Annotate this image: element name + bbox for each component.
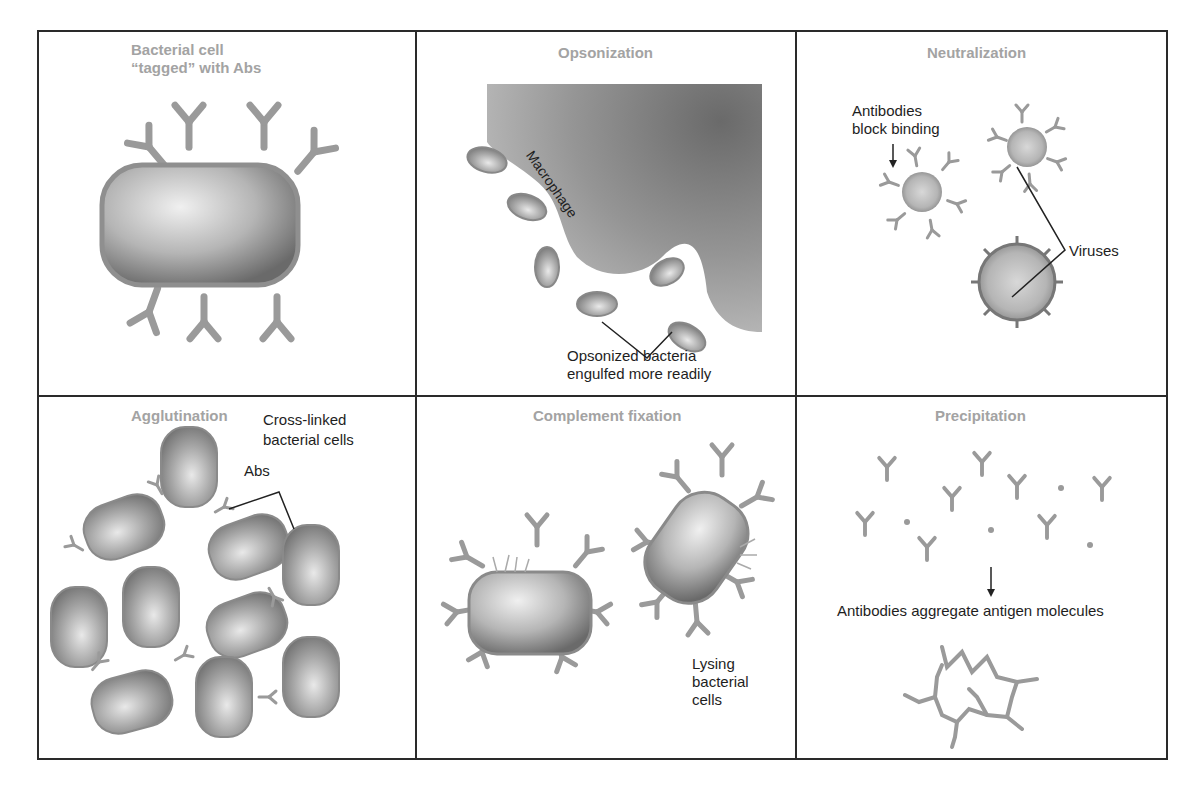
precipitation-illustration xyxy=(797,397,1168,760)
bacterial-cell-icon xyxy=(469,572,591,654)
neutralization-illustration xyxy=(797,32,1168,395)
panel-agglutination: Agglutination Cross-linked bacterial cel… xyxy=(39,397,415,760)
abs-label: Abs xyxy=(244,462,270,480)
panel-tagged-cell: Bacterial cell “tagged” with Abs xyxy=(39,32,415,395)
panel-opsonization: Opsonization Macrophage Opsonized bacter… xyxy=(417,32,795,395)
crosslinked-label-line2: bacterial cells xyxy=(263,431,354,449)
viruses-label: Viruses xyxy=(1069,242,1119,260)
tagged-cell-illustration xyxy=(39,32,415,395)
virus-icon xyxy=(1007,127,1047,167)
antibody-icon xyxy=(857,453,1110,560)
lysing-label-line2: bacterial xyxy=(692,673,749,691)
opsonized-label-line2: engulfed more readily xyxy=(567,365,711,383)
panel-title: Neutralization xyxy=(927,44,1026,62)
lysing-label-line1: Lysing xyxy=(692,655,735,673)
lysing-label-line3: cells xyxy=(692,691,722,709)
antibodies-label-line2: block binding xyxy=(852,120,940,138)
arrow-down-icon xyxy=(889,160,897,168)
antibodies-label-line1: Antibodies xyxy=(852,102,922,120)
arrow-down-icon xyxy=(987,589,995,597)
bacterial-cell-icon xyxy=(102,165,298,285)
opsonized-label-line1: Opsonized bacteria xyxy=(567,347,696,365)
virus-icon xyxy=(902,172,942,212)
panel-title: Precipitation xyxy=(935,407,1026,425)
virus-spiked-icon xyxy=(971,236,1063,328)
panel-neutralization: Neutralization Antibodies block binding … xyxy=(797,32,1168,395)
figure-grid: Bacterial cell “tagged” with Abs xyxy=(37,30,1168,760)
crosslinked-label-line1: Cross-linked xyxy=(263,411,346,429)
panel-complement-fixation: Complement fixation Lysing bacterial cel… xyxy=(417,397,795,760)
antigen-antibody-aggregate-icon xyxy=(905,647,1037,747)
agglutination-illustration xyxy=(39,397,415,760)
panel-title: Agglutination xyxy=(131,407,228,425)
complement-fixation-illustration xyxy=(417,397,795,760)
panel-precipitation: Precipitation Antibodies aggregate antig… xyxy=(797,397,1168,760)
bacterial-cell-icon xyxy=(51,427,339,739)
panel-title: Opsonization xyxy=(558,44,653,62)
opsonization-illustration xyxy=(417,32,795,395)
panel-title: Complement fixation xyxy=(533,407,681,425)
aggregate-label: Antibodies aggregate antigen molecules xyxy=(837,602,1104,620)
